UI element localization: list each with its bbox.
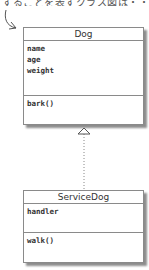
methods-section: walk() — [24, 233, 143, 248]
class-box-servicedog: ServiceDog handler walk() — [23, 190, 144, 263]
attribute: handler — [27, 206, 140, 217]
method: walk() — [27, 235, 140, 246]
inheritance-triangle-icon — [78, 128, 90, 134]
class-name: ServiceDog — [24, 191, 143, 204]
attributes-section: handler — [24, 204, 143, 233]
